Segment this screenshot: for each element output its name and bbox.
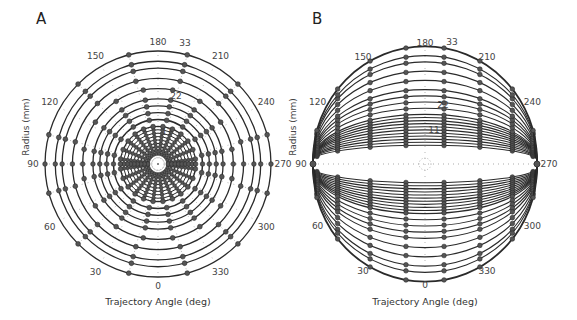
radius-tick-11: 11 — [428, 126, 439, 135]
radius-tick-22: 22 — [437, 101, 448, 110]
angle-tick-270: 270 — [274, 160, 291, 169]
panel-a-ylabel: Radius (mm) — [21, 98, 31, 156]
radius-tick-33: 33 — [179, 39, 190, 48]
angle-tick-180: 180 — [416, 39, 433, 48]
angle-tick-210: 210 — [212, 51, 229, 60]
panel-b-letter: B — [312, 12, 322, 27]
angle-tick-330: 330 — [478, 267, 495, 276]
angle-tick-0: 0 — [422, 281, 428, 290]
angle-tick-30: 30 — [90, 268, 101, 277]
panel-b-xlabel: Trajectory Angle (deg) — [372, 296, 477, 307]
radius-tick-11: 11 — [161, 128, 172, 137]
angle-tick-30: 30 — [357, 267, 368, 276]
angle-tick-150: 150 — [87, 51, 104, 60]
angle-tick-120: 120 — [309, 98, 326, 107]
panel-a-xlabel: Trajectory Angle (deg) — [105, 296, 210, 307]
angle-tick-90: 90 — [295, 160, 306, 169]
angle-tick-60: 60 — [44, 222, 55, 231]
angle-tick-0: 0 — [155, 282, 161, 291]
angle-tick-300: 300 — [258, 222, 275, 231]
radius-tick-22: 22 — [170, 91, 181, 100]
angle-tick-60: 60 — [312, 222, 323, 231]
angle-tick-330: 330 — [212, 268, 229, 277]
angle-tick-240: 240 — [524, 98, 541, 107]
panel-b-plot — [310, 46, 540, 282]
angle-tick-120: 120 — [41, 97, 58, 106]
angle-tick-300: 300 — [524, 222, 541, 231]
panel-b-ylabel: Radius (mm) — [288, 98, 298, 156]
panel-a-letter: A — [36, 12, 46, 27]
angle-tick-240: 240 — [258, 97, 275, 106]
radius-tick-33: 33 — [446, 38, 457, 47]
angle-tick-180: 180 — [149, 38, 166, 47]
angle-tick-210: 210 — [478, 52, 495, 61]
panel-a-plot — [43, 51, 274, 277]
angle-tick-150: 150 — [354, 52, 371, 61]
angle-tick-270: 270 — [540, 160, 557, 169]
angle-tick-90: 90 — [27, 160, 38, 169]
